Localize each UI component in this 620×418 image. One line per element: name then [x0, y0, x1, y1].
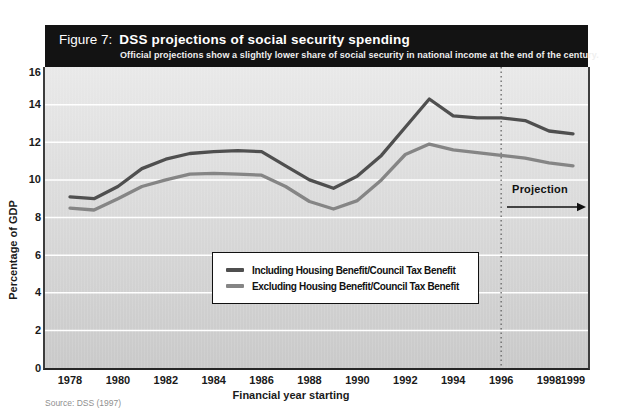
y-tick-label-14: 14	[0, 98, 41, 111]
legend-item-excluding: Excluding Housing Benefit/Council Tax Be…	[226, 281, 478, 292]
x-tick-label-1984: 1984	[192, 374, 236, 386]
figure-number-label: Figure 7:	[59, 32, 112, 47]
x-tick-label-1999: 1999	[551, 374, 595, 386]
figure-subtitle: Official projections show a slightly low…	[45, 50, 588, 60]
source-note: Source: DSS (1997)	[45, 398, 121, 408]
y-tick-label-8: 8	[0, 211, 41, 224]
x-tick-label-1986: 1986	[240, 374, 284, 386]
y-tick-label-10: 10	[0, 173, 41, 186]
x-tick-label-1978: 1978	[48, 374, 92, 386]
x-tick-label-1992: 1992	[383, 374, 427, 386]
legend-box: Including Housing Benefit/Council Tax Be…	[212, 252, 479, 304]
y-tick-label-6: 6	[0, 249, 41, 262]
y-tick-label-4: 4	[0, 286, 41, 299]
series-line-excluding	[70, 144, 573, 210]
x-tick-label-1988: 1988	[288, 374, 332, 386]
x-axis-title: Financial year starting	[181, 389, 401, 401]
chart-canvas	[45, 67, 588, 368]
projection-arrow-head	[577, 203, 586, 211]
figure-title-line: Figure 7:DSS projections of social secur…	[45, 25, 588, 47]
x-tick-label-1982: 1982	[144, 374, 188, 386]
legend-label-excluding: Excluding Housing Benefit/Council Tax Be…	[252, 281, 459, 292]
x-tick-label-1980: 1980	[96, 374, 140, 386]
plot-area: Including Housing Benefit/Council Tax Be…	[43, 67, 590, 370]
y-tick-label-12: 12	[0, 136, 41, 149]
y-tick-label-0: 0	[0, 362, 41, 375]
y-tick-label-2: 2	[0, 324, 41, 337]
x-tick-label-1996: 1996	[479, 374, 523, 386]
legend-swatch-including	[226, 268, 244, 271]
figure-7-chart: Figure 7:DSS projections of social secur…	[0, 0, 620, 418]
x-tick-label-1990: 1990	[335, 374, 379, 386]
figure-title-bar: Figure 7:DSS projections of social secur…	[45, 25, 588, 67]
projection-label: Projection	[485, 183, 595, 195]
legend-item-including: Including Housing Benefit/Council Tax Be…	[226, 265, 478, 276]
legend-label-including: Including Housing Benefit/Council Tax Be…	[252, 265, 456, 276]
figure-title: DSS projections of social security spend…	[119, 32, 410, 47]
legend-swatch-excluding	[226, 284, 244, 287]
y-tick-label-16: 16	[0, 66, 41, 79]
x-tick-label-1994: 1994	[431, 374, 475, 386]
